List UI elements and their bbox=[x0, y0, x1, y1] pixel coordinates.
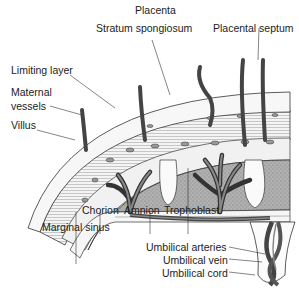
label-placenta: Placenta bbox=[135, 4, 176, 16]
placenta-diagram: Placenta Stratum spongiosum Placental se… bbox=[0, 0, 299, 292]
label-placental-septum: Placental septum bbox=[213, 22, 294, 34]
label-trophoblast: Trophoblast bbox=[164, 204, 219, 216]
label-marginal-sinus: Marginal sinus bbox=[42, 221, 110, 233]
label-maternal-vessels-line1: Maternal bbox=[11, 86, 52, 98]
label-stratum-spongiosum: Stratum spongiosum bbox=[96, 22, 192, 34]
label-umbilical-arteries: Umbilical arteries bbox=[146, 241, 227, 253]
label-umbilical-vein: Umbilical vein bbox=[163, 254, 228, 266]
label-amnion: Amnion bbox=[124, 204, 160, 216]
label-limiting-layer: Limiting layer bbox=[11, 64, 73, 76]
label-chorion: Chorion bbox=[82, 204, 119, 216]
label-maternal-vessels-line2: vessels bbox=[11, 100, 46, 112]
label-villus: Villus bbox=[11, 119, 36, 131]
label-umbilical-cord: Umbilical cord bbox=[162, 267, 228, 279]
